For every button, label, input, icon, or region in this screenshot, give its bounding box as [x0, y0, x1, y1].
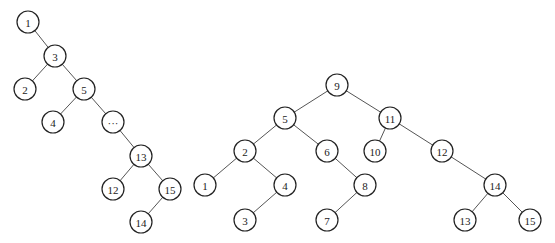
node-label: 4 [50, 117, 56, 129]
tree-node: 9 [326, 74, 348, 96]
tree-node: 5 [274, 107, 296, 129]
node-label: 12 [108, 184, 119, 196]
tree-node: 14 [484, 174, 506, 196]
node-label: 5 [282, 113, 288, 125]
node-label: 3 [242, 215, 248, 227]
right-tree: 951126101214814371315 [194, 74, 541, 231]
tree-node: 5 [73, 78, 95, 100]
tree-node: 12 [431, 140, 453, 162]
tree-node: 2 [234, 140, 256, 162]
tree-node: 15 [519, 209, 541, 231]
tree-node: 12 [102, 178, 124, 200]
tree-node: 14 [130, 211, 152, 233]
tree-node: 8 [354, 174, 376, 196]
tree-node: 11 [379, 107, 401, 129]
tree-node: 3 [234, 209, 256, 231]
node-label: 10 [370, 146, 382, 158]
tree-node: 7 [316, 209, 338, 231]
tree-nodes: 13254···13121514951126101214814371315 [14, 11, 541, 233]
node-label: 3 [52, 51, 58, 63]
node-label: 12 [437, 146, 448, 158]
tree-node: 1 [17, 11, 39, 33]
tree-node: 13 [454, 209, 476, 231]
left-tree: 13254···13121514 [14, 11, 181, 233]
node-label: 8 [362, 180, 368, 192]
node-label: 15 [165, 184, 177, 196]
node-label: 2 [22, 84, 28, 96]
node-label: 11 [385, 113, 396, 125]
tree-node: 4 [274, 174, 296, 196]
tree-node: 4 [42, 111, 64, 133]
tree-node: 3 [44, 45, 66, 67]
node-label: 9 [334, 80, 340, 92]
node-label: 1 [202, 180, 208, 192]
node-label: ··· [108, 117, 119, 129]
tree-node: 15 [159, 178, 181, 200]
tree-node: 6 [316, 140, 338, 162]
node-label: 1 [25, 17, 31, 29]
tree-node: 1 [194, 174, 216, 196]
node-label: 7 [324, 215, 330, 227]
node-label: 6 [324, 146, 330, 158]
node-label: 14 [136, 217, 148, 229]
node-label: 5 [81, 84, 87, 96]
tree-node: 13 [130, 145, 152, 167]
tree-node: 10 [364, 140, 386, 162]
tree-node: 2 [14, 78, 36, 100]
node-label: 13 [136, 151, 148, 163]
node-label: 15 [525, 215, 537, 227]
tree-diagram-canvas: 13254···13121514951126101214814371315 [0, 0, 555, 243]
node-label: 2 [242, 146, 248, 158]
node-label: 13 [460, 215, 472, 227]
node-label: 14 [490, 180, 502, 192]
tree-node: ··· [102, 111, 124, 133]
node-label: 4 [282, 180, 288, 192]
